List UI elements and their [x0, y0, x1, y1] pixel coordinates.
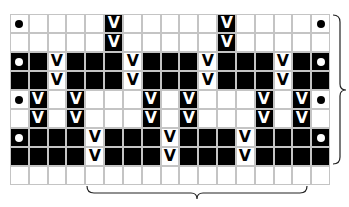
bottom-repeat-brace [0, 0, 349, 207]
